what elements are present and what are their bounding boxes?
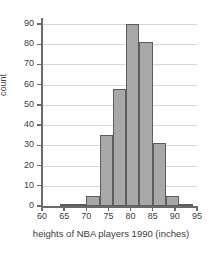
histogram-bar xyxy=(139,42,152,206)
x-tick-label: 95 xyxy=(185,211,209,221)
histogram-bar xyxy=(126,24,139,206)
y-tick-label: 70 xyxy=(0,59,34,68)
y-tick xyxy=(37,84,41,85)
y-tick-label: 10 xyxy=(0,181,34,190)
x-tick-label: 85 xyxy=(141,211,165,221)
y-tick-label: 30 xyxy=(0,140,34,149)
gridline xyxy=(42,24,197,25)
x-tick-label: 75 xyxy=(96,211,120,221)
y-tick-label: 0 xyxy=(0,201,34,210)
y-tick-label: 90 xyxy=(0,19,34,28)
y-tick xyxy=(37,145,41,146)
x-tick-label: 90 xyxy=(163,211,187,221)
gridline xyxy=(42,85,197,86)
y-axis-label: count xyxy=(0,74,8,96)
histogram-bar xyxy=(86,196,99,206)
x-tick-label: 65 xyxy=(52,211,76,221)
y-tick xyxy=(37,165,41,166)
x-tick-label: 80 xyxy=(119,211,143,221)
y-axis-line xyxy=(41,18,43,207)
y-tick-label: 50 xyxy=(0,100,34,109)
y-tick xyxy=(37,64,41,65)
x-tick-label: 70 xyxy=(74,211,98,221)
x-axis-label: heights of NBA players 1990 (inches) xyxy=(0,228,222,239)
y-tick xyxy=(37,185,41,186)
y-tick-label: 20 xyxy=(0,161,34,170)
y-tick-label: 80 xyxy=(0,39,34,48)
gridline xyxy=(42,64,197,65)
histogram-bar xyxy=(100,135,113,206)
gridline xyxy=(42,44,197,45)
histogram-figure: 0102030405060708090 6065707580859095 cou… xyxy=(0,0,222,254)
x-tick-label: 60 xyxy=(30,211,54,221)
y-tick xyxy=(37,23,41,24)
histogram-bar xyxy=(113,89,126,206)
histogram-bar xyxy=(166,196,179,206)
y-tick-label: 40 xyxy=(0,120,34,129)
histogram-bar xyxy=(153,143,166,206)
y-tick xyxy=(37,44,41,45)
plot-area xyxy=(42,20,197,206)
y-tick xyxy=(37,124,41,125)
y-tick xyxy=(37,104,41,105)
